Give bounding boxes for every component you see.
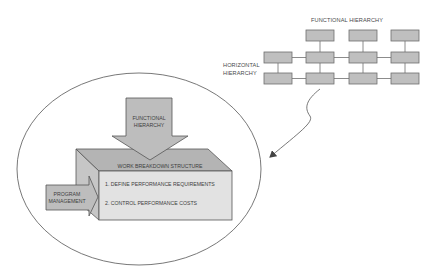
- wbs-item: 1. DEFINE PERFORMANCE REQUIREMENTS: [105, 181, 215, 187]
- wbs-box-front-face: [99, 171, 232, 220]
- down-arrow-label-line1: FUNCTIONAL: [132, 115, 165, 121]
- wbs-item: 2. CONTROL PERFORMANCE COSTS: [105, 200, 198, 206]
- matrix-node: [349, 30, 377, 41]
- matrix-node: [391, 30, 419, 41]
- matrix-node: [306, 30, 334, 41]
- matrix-node: [391, 73, 419, 84]
- zoom-pointer-arrow: [270, 89, 320, 157]
- side-arrow-label-line2: MANAGEMENT: [48, 198, 86, 204]
- program-management-arrow: PROGRAM MANAGEMENT: [46, 176, 98, 216]
- down-arrow-label-line2: HIERARCHY: [134, 122, 165, 128]
- horizontal-hierarchy-label-line2: HIERARCHY: [223, 70, 257, 76]
- wbs-title: WORK BREAKDOWN STRUCTURE: [117, 163, 203, 169]
- wbs-box: WORK BREAKDOWN STRUCTURE 1. DEFINE PERFO…: [76, 149, 232, 220]
- matrix-node: [391, 52, 419, 63]
- matrix-node: [264, 73, 292, 84]
- side-arrow-label-line1: PROGRAM: [54, 191, 81, 197]
- matrix-node: [349, 73, 377, 84]
- functional-horizontal-matrix: FUNCTIONAL HIERARCHY HORIZONTAL HIERARCH…: [223, 17, 419, 84]
- matrix-node: [306, 73, 334, 84]
- functional-hierarchy-label: FUNCTIONAL HIERARCHY: [311, 17, 383, 23]
- horizontal-hierarchy-label-line1: HORIZONTAL: [223, 62, 260, 68]
- diagram-canvas: FUNCTIONAL HIERARCHY HORIZONTAL HIERARCH…: [0, 0, 434, 280]
- matrix-node: [349, 52, 377, 63]
- matrix-node: [264, 52, 292, 63]
- matrix-node: [306, 52, 334, 63]
